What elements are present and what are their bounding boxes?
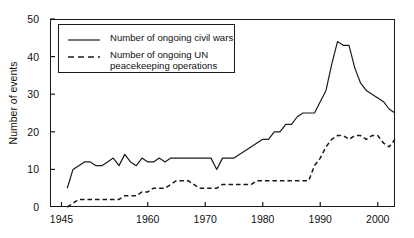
series-un-peacekeeping <box>67 136 395 207</box>
legend-entry-civil-wars: Number of ongoing civil wars <box>67 32 233 45</box>
legend-label-un-peacekeeping: Number of ongoing UN peacekeeping operat… <box>110 49 217 72</box>
legend-entry-un-peacekeeping: Number of ongoing UN peacekeeping operat… <box>67 49 217 72</box>
chart-legend: Number of ongoing civil wars Number of o… <box>58 24 235 73</box>
chart-figure: Number of events 01020304050 19451960197… <box>0 0 414 238</box>
legend-sample-solid-line <box>67 35 101 45</box>
legend-sample-dashed-line <box>67 52 101 62</box>
legend-label-civil-wars: Number of ongoing civil wars <box>110 32 233 43</box>
